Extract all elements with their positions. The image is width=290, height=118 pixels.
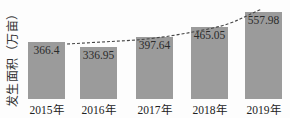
y-axis-label: 发生面积（万亩） [3,7,21,107]
x-tick-label: 2018年 [185,101,235,117]
x-tick-label: 2017年 [130,101,180,117]
bar-value-label: 557.98 [239,14,288,26]
bar-chart: 发生面积（万亩） 366.4 336.95 397.64 465.05 557.… [0,0,290,118]
bar-2018: 465.05 [191,27,228,99]
bar-2016: 336.95 [80,47,117,99]
x-tick-label: 2016年 [74,101,124,117]
bar-value-label: 336.95 [74,49,123,61]
bar-value-label: 465.05 [185,29,234,41]
bar-2017: 397.64 [136,37,173,99]
bar-value-label: 397.64 [130,39,179,51]
x-tick-label: 2019年 [239,101,289,117]
x-tick-label: 2015年 [22,101,72,117]
bar-2019: 557.98 [245,12,282,99]
bar-value-label: 366.4 [22,44,71,56]
bar-2015: 366.4 [28,42,65,99]
